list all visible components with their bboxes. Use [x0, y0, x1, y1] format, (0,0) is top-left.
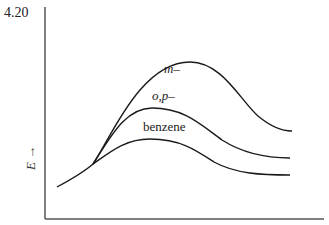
curve-benzene	[93, 139, 290, 175]
label-op: o,p–	[152, 88, 175, 104]
label-benzene: benzene	[143, 119, 186, 135]
label-m: m–	[164, 61, 180, 77]
y-axis-label: E →	[23, 146, 39, 170]
curve-op	[93, 108, 290, 164]
diagram-canvas	[0, 0, 329, 225]
energy-profile-diagram: 4.20 m– o,p– benzene E →	[0, 0, 329, 225]
